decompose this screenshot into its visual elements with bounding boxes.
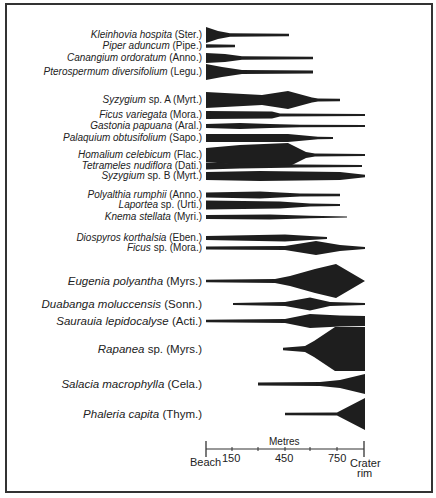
species-family: (Myri.) bbox=[171, 211, 202, 222]
species-label: Syzygium sp. B (Myrt.) bbox=[101, 170, 202, 182]
species-family: (Ster.) bbox=[172, 29, 202, 40]
species-genus: Homalium celebicum bbox=[78, 149, 171, 160]
axis-label-rim: rim bbox=[357, 467, 372, 479]
species-label: Laportea sp. (Urti.) bbox=[119, 199, 202, 211]
species-family: (Cela.) bbox=[164, 378, 202, 390]
species-label: Ficus sp. (Mora.) bbox=[127, 242, 202, 254]
species-kite bbox=[206, 241, 365, 255]
species-genus: Pterospermum diversifolium bbox=[44, 66, 168, 77]
species-genus: Rapanea bbox=[98, 343, 145, 355]
species-kite bbox=[285, 398, 365, 430]
species-genus: Canangium ordoratum bbox=[67, 52, 167, 63]
species-family: (Sapo.) bbox=[166, 132, 202, 143]
axis-tick-label-150: 150 bbox=[222, 452, 240, 464]
species-genus: Ficus bbox=[127, 242, 151, 253]
species-suffix: sp. bbox=[151, 242, 167, 253]
species-suffix: sp. A bbox=[146, 94, 170, 105]
species-label: Phaleria capita (Thym.) bbox=[83, 407, 202, 421]
species-family: (Mora.) bbox=[167, 109, 202, 120]
species-genus: Palaquium obtusifolium bbox=[63, 132, 166, 143]
species-kite bbox=[206, 44, 235, 48]
species-kite bbox=[206, 215, 347, 220]
species-genus: Piper aduncum bbox=[103, 40, 170, 51]
species-family: (Urti.) bbox=[174, 199, 202, 210]
species-family: (Flac.) bbox=[171, 149, 202, 160]
species-genus: Knema stellata bbox=[105, 211, 171, 222]
axis-label-beach: Beach bbox=[190, 456, 221, 468]
axis-tick-label-450: 450 bbox=[275, 452, 293, 464]
species-label: Palaquium obtusifolium (Sapo.) bbox=[63, 132, 202, 144]
species-label: Rapanea sp. (Myrs.) bbox=[98, 342, 202, 356]
species-genus: Laportea bbox=[119, 199, 158, 210]
species-family: (Legu.) bbox=[168, 66, 202, 77]
species-kite bbox=[206, 111, 365, 119]
species-kite bbox=[206, 64, 313, 80]
species-label: Eugenia polyantha (Myrs.) bbox=[68, 274, 202, 288]
species-family: (Aral.) bbox=[172, 120, 202, 131]
species-kite bbox=[206, 192, 340, 199]
species-label: Duabanga moluccensis (Sonn.) bbox=[42, 297, 202, 311]
species-genus: Kleinhovia hospita bbox=[91, 29, 172, 40]
species-kite bbox=[206, 171, 365, 181]
species-label: Pterospermum diversifolium (Legu.) bbox=[44, 66, 202, 78]
species-suffix: sp. B bbox=[145, 170, 171, 181]
species-suffix: sp. bbox=[158, 199, 174, 210]
species-genus: Duabanga moluccensis bbox=[42, 298, 162, 310]
species-kite bbox=[258, 374, 365, 394]
species-kite bbox=[206, 314, 365, 328]
species-family: (Anno.) bbox=[166, 52, 202, 63]
species-family: (Myrs.) bbox=[163, 343, 202, 355]
species-kites bbox=[206, 27, 365, 430]
species-kite bbox=[206, 27, 289, 43]
species-family: (Myrs.) bbox=[163, 275, 202, 287]
species-suffix: sp. bbox=[144, 343, 163, 355]
species-family: (Thym.) bbox=[159, 408, 202, 420]
species-kite bbox=[206, 134, 333, 142]
species-kite bbox=[206, 53, 313, 63]
species-kite bbox=[206, 264, 365, 298]
species-genus: Phaleria capita bbox=[83, 408, 159, 420]
species-genus: Saurauia lepidocalyse bbox=[56, 315, 169, 327]
axis-title: Metres bbox=[269, 436, 300, 448]
species-kite bbox=[283, 327, 365, 371]
species-label: Gastonia papuana (Aral.) bbox=[90, 120, 202, 132]
species-label: Canangium ordoratum (Anno.) bbox=[67, 52, 202, 64]
species-kite bbox=[206, 201, 340, 210]
species-family: (Myrt.) bbox=[170, 170, 202, 181]
species-genus: Syzygium bbox=[103, 94, 146, 105]
species-family: (Mora.) bbox=[167, 242, 202, 253]
species-label: Saurauia lepidocalyse (Acti.) bbox=[56, 314, 202, 328]
species-genus: Ficus variegata bbox=[99, 109, 167, 120]
species-genus: Salacia macrophylla bbox=[61, 378, 164, 390]
axis-tick-label-750: 750 bbox=[328, 452, 346, 464]
species-label: Knema stellata (Myri.) bbox=[105, 211, 202, 223]
species-genus: Eugenia polyantha bbox=[68, 275, 163, 287]
species-family: (Myrt.) bbox=[170, 94, 202, 105]
species-label: Piper aduncum (Pipe.) bbox=[103, 40, 203, 52]
species-kite bbox=[206, 91, 340, 109]
species-kite bbox=[206, 123, 365, 129]
species-label: Salacia macrophylla (Cela.) bbox=[61, 377, 202, 391]
species-kite bbox=[233, 298, 365, 311]
species-label: Syzygium sp. A (Myrt.) bbox=[103, 94, 202, 106]
species-genus: Syzygium bbox=[101, 170, 144, 181]
species-family: (Acti.) bbox=[169, 315, 202, 327]
species-kite bbox=[206, 235, 327, 242]
species-family: (Sonn.) bbox=[161, 298, 202, 310]
species-genus: Gastonia papuana bbox=[90, 120, 172, 131]
species-family: (Pipe.) bbox=[170, 40, 202, 51]
